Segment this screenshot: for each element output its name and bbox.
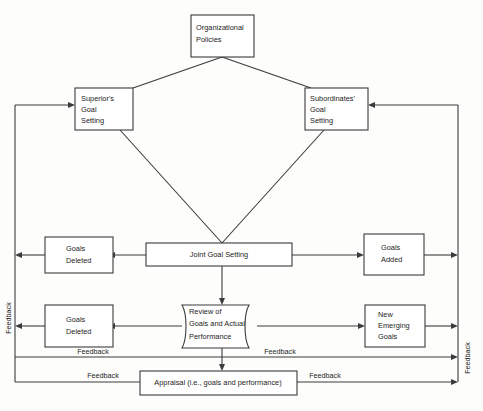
- node-organizational-policies[interactable]: Organizational Policies: [191, 15, 254, 57]
- feedback-label-bottom-left: Feedback: [87, 371, 119, 380]
- goals-deleted-upper-line1: Goals: [66, 244, 86, 253]
- feedback-label-right-vertical: Feedback: [463, 342, 472, 374]
- connector-superior-to-joint: [120, 130, 222, 243]
- goals-deleted-lower-line2: Deleted: [66, 327, 91, 336]
- superiors-goal-setting-line1: Superior's: [81, 94, 114, 103]
- feedback-label-middle-right: Feedback: [264, 347, 296, 356]
- superiors-goal-setting-line3: Setting: [81, 116, 104, 125]
- arrowhead-goals-deleted-lower-to-left-rail: [15, 323, 22, 329]
- feedback-label-middle-left: Feedback: [77, 347, 109, 356]
- feedback-label-left-vertical: Feedback: [4, 302, 13, 334]
- flow-diagram: Organizational Policies Superior's Goal …: [0, 0, 483, 411]
- new-emerging-goals-line3: Goals: [378, 332, 398, 341]
- appraisal-label: Appraisal (i.e., goals and performance): [154, 378, 281, 387]
- node-goals-deleted-lower[interactable]: Goals Deleted: [45, 305, 113, 347]
- connector-policies-to-superior: [133, 57, 222, 88]
- joint-goal-setting-label: Joint Goal Setting: [190, 250, 248, 259]
- arrowhead-goals-deleted-upper-to-left-rail: [15, 252, 22, 258]
- diagram-canvas: Organizational Policies Superior's Goal …: [0, 0, 483, 411]
- superiors-goal-setting-line2: Goal: [81, 105, 97, 114]
- arrowhead-new-emerging-goals-to-right-rail: [451, 323, 458, 329]
- review-of-goals-line3: Performance: [189, 332, 231, 341]
- subordinates-goal-setting-line3: Setting: [310, 116, 333, 125]
- goals-added-line1: Goals: [381, 243, 401, 252]
- node-appraisal[interactable]: Appraisal (i.e., goals and performance): [140, 371, 297, 395]
- node-review-of-goals[interactable]: Review of Goals and Actual Performance: [182, 305, 249, 348]
- arrowhead-joint-to-review: [219, 298, 225, 305]
- arrowhead-right-rail-to-subordinates: [368, 102, 375, 108]
- node-goals-deleted-upper[interactable]: Goals Deleted: [45, 237, 113, 273]
- new-emerging-goals-line1: New: [378, 310, 393, 319]
- arrowhead-goals-added-to-right-rail: [451, 252, 458, 258]
- node-superiors-goal-setting[interactable]: Superior's Goal Setting: [75, 88, 133, 130]
- connector-subordinates-to-joint: [222, 130, 324, 243]
- review-of-goals-line2: Goals and Actual: [189, 319, 245, 328]
- feedback-label-bottom-right: Feedback: [309, 371, 341, 380]
- goals-deleted-lower-line1: Goals: [66, 315, 86, 324]
- node-new-emerging-goals[interactable]: New Emerging Goals: [365, 305, 425, 347]
- organizational-policies-line1: Organizational: [196, 23, 244, 32]
- node-joint-goal-setting[interactable]: Joint Goal Setting: [146, 243, 292, 266]
- arrowhead-left-rail-to-superior: [68, 102, 75, 108]
- arrowhead-review-to-new-emerging-goals: [358, 323, 365, 329]
- goals-deleted-upper-line2: Deleted: [66, 256, 91, 265]
- organizational-policies-line2: Policies: [196, 35, 222, 44]
- arrowhead-review-to-appraisal: [219, 364, 225, 371]
- review-of-goals-line1: Review of: [189, 307, 222, 316]
- arrowhead-feedback-rail-bottom-right: [451, 379, 458, 385]
- subordinates-goal-setting-line1: Subordinates': [310, 94, 356, 103]
- new-emerging-goals-line2: Emerging: [378, 321, 410, 330]
- connector-policies-to-subordinates: [222, 57, 311, 88]
- node-subordinates-goal-setting[interactable]: Subordinates' Goal Setting: [305, 88, 368, 130]
- arrowhead-feedback-rail-middle-right: [451, 354, 458, 360]
- goals-added-line2: Added: [381, 255, 402, 264]
- arrowhead-joint-to-goals-added: [357, 252, 364, 258]
- subordinates-goal-setting-line2: Goal: [310, 105, 326, 114]
- node-goals-added[interactable]: Goals Added: [364, 234, 424, 275]
